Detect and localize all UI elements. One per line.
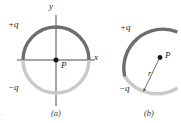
- panel-caption-b: (b): [144, 109, 154, 118]
- radius-label-r: r: [148, 70, 151, 78]
- radius-line-r: [144, 59, 160, 92]
- axis-label-x: x: [94, 53, 98, 62]
- panel-caption-a: (a): [51, 109, 61, 118]
- charge-label-positive-panel-a: +q: [8, 20, 19, 29]
- point-marker-p-panel-b: [158, 55, 163, 60]
- point-label-p-panel-b: P: [165, 51, 171, 60]
- panel-b-graphics: [124, 29, 178, 94]
- axis-label-y: y: [49, 2, 53, 11]
- panel-a-graphics: [17, 15, 94, 106]
- charge-label-negative-panel-b: −q: [119, 84, 130, 93]
- figure-canvas: [0, 0, 181, 123]
- center-point-marker-p: [54, 58, 59, 63]
- charge-label-positive-panel-b: +q: [120, 23, 131, 32]
- point-label-p-panel-a: P: [61, 61, 67, 70]
- charge-label-negative-panel-a: −q: [8, 83, 19, 92]
- physics-figure: +q −q y x P (a) +q −q P r (b) ·: [0, 0, 181, 123]
- arc-lower-negative: [125, 77, 178, 94]
- stray-scan-mark: ·: [1, 111, 3, 119]
